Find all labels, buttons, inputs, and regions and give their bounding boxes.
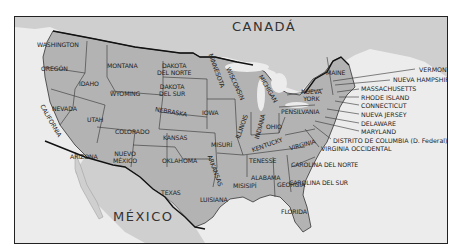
label-nueva-york: NUEVAYORK: [301, 88, 322, 102]
label-dakota-del-sur: DAKOTADEL SUR: [159, 83, 185, 97]
label-pensilvania: PENSILVANIA: [281, 108, 319, 115]
label-utah: UTAH: [87, 116, 103, 123]
label-iowa: IOWA: [202, 109, 218, 116]
callout-vermont: VERMONT: [419, 66, 448, 73]
callout-distrito-de-columbia: DISTRITO DE COLUMBIA (D. Federal): [333, 137, 447, 144]
label-misuri: MISURÍ: [211, 141, 232, 148]
label-canada: CANADÁ: [232, 23, 296, 30]
label-oklahoma: OKLAHOMA: [162, 157, 197, 164]
label-florida: FLORIDA: [281, 208, 307, 215]
label-oregon: OREGÓN: [41, 65, 68, 72]
label-wyoming: WYOMING: [110, 90, 140, 97]
callout-rhode-island: RHODE ISLAND: [361, 94, 409, 101]
label-alabama: ALABAMA: [251, 174, 280, 181]
label-maine: MAINE: [326, 69, 345, 76]
label-colorado: COLORADO: [115, 128, 149, 135]
label-dakota-del-norte: DAKOTADEL NORTE: [157, 62, 191, 76]
map-frame: CANADÁ MÉXICO WASHINGTON OREGÓN CALIFORN…: [14, 16, 448, 244]
label-ohio: OHIO: [266, 123, 282, 130]
callout-virginia-occidental: VIRGINIA OCCIDENTAL: [321, 145, 391, 152]
callout-nueva-jersey: NUEVA JERSEY: [361, 111, 407, 118]
label-washington: WASHINGTON: [37, 41, 79, 48]
label-mexico: MÉXICO: [113, 213, 173, 220]
callout-massachusetts: MASSACHUSETTS: [361, 85, 416, 92]
callout-nueva-hampshire: NUEVA HAMPSHIRE: [393, 76, 448, 83]
callout-delaware: DELAWARE: [361, 120, 396, 127]
label-carolina-del-norte: CAROLINA DEL NORTE: [291, 161, 358, 168]
label-kansas: KANSAS: [163, 134, 187, 141]
label-montana: MONTANA: [107, 62, 138, 69]
label-nevada: NEVADA: [52, 105, 77, 112]
label-luisiana: LUISIANA: [200, 196, 228, 203]
label-carolina-del-sur: CAROLINA DEL SUR: [289, 179, 348, 186]
label-idaho: IDAHO: [79, 80, 99, 87]
label-nuevo-mexico: NUEVOMÉXICO: [113, 150, 137, 164]
callout-connecticut: CONNECTICUT: [361, 102, 407, 109]
label-misisipi: MISISIPÍ: [233, 182, 256, 189]
callout-maryland: MARYLAND: [361, 128, 396, 135]
label-texas: TEXAS: [161, 189, 181, 196]
label-arizona: ARIZONA: [70, 153, 98, 160]
label-tenesse: TENESSE: [249, 157, 276, 164]
